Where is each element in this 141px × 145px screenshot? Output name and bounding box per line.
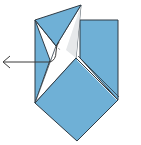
origami-diagram (0, 0, 141, 145)
fold-arrow (4, 42, 59, 62)
fold-diagram-svg (0, 0, 141, 145)
